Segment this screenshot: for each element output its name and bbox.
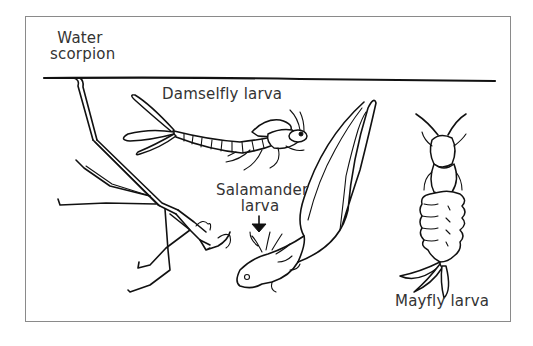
water-scorpion-drawing <box>58 78 231 292</box>
water-scorpion-label: Water scorpion <box>50 30 110 62</box>
salamander-larva-label: Salamander larva <box>216 182 304 214</box>
damselfly-larva-drawing <box>123 95 307 170</box>
damselfly-larva-label: Damselfly larva <box>162 86 282 102</box>
mayfly-larva-label: Mayfly larva <box>395 293 489 309</box>
down-arrow-icon <box>252 216 266 232</box>
salamander-larva-label-line-2: larva <box>216 198 304 214</box>
water-scorpion-label-line-2: scorpion <box>50 46 110 62</box>
salamander-larva-label-line-1: Salamander <box>216 182 304 198</box>
water-surface-line <box>44 78 495 81</box>
mayfly-larva-drawing <box>400 114 466 298</box>
water-scorpion-label-line-1: Water <box>50 30 110 46</box>
